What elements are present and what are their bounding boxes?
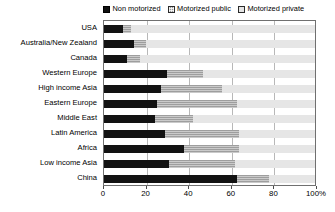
legend-swatch-motorized-public-icon [168,6,175,13]
x-axis-tick-label: 40 [184,190,193,198]
plot-area [103,20,316,186]
bar-row[interactable] [104,130,315,138]
bar-segment-motorized-private[interactable] [237,100,315,108]
bar-row[interactable] [104,160,315,168]
bar-segment-motorized-public[interactable] [155,115,193,123]
x-axis-tick-label: 0 [101,190,105,198]
bar-segment-motorized-private[interactable] [239,145,315,153]
y-axis-label: Canada [70,54,97,62]
bar-segment-non-motorized[interactable] [104,145,184,153]
bar-row[interactable] [104,25,315,33]
y-axis-label: China [77,174,97,182]
x-axis-tick-label: 20 [141,190,150,198]
bar-segment-non-motorized[interactable] [104,175,237,183]
bar-segment-motorized-public[interactable] [167,70,203,78]
bar-segment-motorized-private[interactable] [131,25,315,33]
y-axis-label: High income Asia [38,84,97,92]
chart-legend: Non motorized Motorized public Motorized… [103,2,335,16]
x-axis-tick-label: 100% [306,190,326,198]
bar-segment-motorized-private[interactable] [203,70,315,78]
bar-segment-motorized-public[interactable] [184,145,239,153]
bar-segment-motorized-public[interactable] [123,25,131,33]
bar-segment-non-motorized[interactable] [104,85,161,93]
bar-segment-motorized-private[interactable] [222,85,315,93]
bar-segment-motorized-public[interactable] [157,100,237,108]
legend-swatch-motorized-private-icon [238,6,245,13]
bar-segment-non-motorized[interactable] [104,40,134,48]
bar-segment-motorized-private[interactable] [146,40,315,48]
legend-item-motorized-private[interactable]: Motorized private [238,5,304,12]
bar-row[interactable] [104,85,315,93]
bar-row[interactable] [104,70,315,78]
bar-segment-motorized-public[interactable] [161,85,222,93]
bar-row[interactable] [104,55,315,63]
bar-segment-non-motorized[interactable] [104,160,169,168]
legend-item-non-motorized[interactable]: Non motorized [103,5,161,12]
bar-segment-non-motorized[interactable] [104,25,123,33]
y-axis-label: Africa [78,144,97,152]
y-axis-category-labels: USAAustralia/New ZealandCanadaWestern Eu… [0,20,100,186]
legend-label-motorized-private: Motorized private [247,5,304,12]
bars-layer [104,21,315,185]
bar-segment-non-motorized[interactable] [104,55,127,63]
x-axis: 020406080100% [103,186,316,210]
y-axis-label: Australia/New Zealand [21,39,97,47]
bar-segment-non-motorized[interactable] [104,100,157,108]
bar-segment-motorized-public[interactable] [165,130,239,138]
bar-row[interactable] [104,145,315,153]
x-axis-tick-label: 60 [226,190,235,198]
y-axis-label: USA [81,24,97,32]
bar-segment-motorized-public[interactable] [169,160,234,168]
bar-row[interactable] [104,115,315,123]
bar-segment-non-motorized[interactable] [104,115,155,123]
bar-row[interactable] [104,100,315,108]
stacked-bar-chart: Non motorized Motorized public Motorized… [0,0,335,212]
y-axis-label: Eastern Europe [44,99,97,107]
y-axis-label: Latin America [51,129,97,137]
bar-segment-motorized-private[interactable] [140,55,315,63]
bar-row[interactable] [104,175,315,183]
bar-segment-motorized-private[interactable] [239,130,315,138]
y-axis-label: Western Europe [42,69,97,77]
bar-row[interactable] [104,40,315,48]
bar-segment-motorized-private[interactable] [193,115,315,123]
bar-segment-motorized-public[interactable] [237,175,269,183]
legend-item-motorized-public[interactable]: Motorized public [168,5,231,12]
bar-segment-non-motorized[interactable] [104,70,167,78]
bar-segment-motorized-private[interactable] [269,175,315,183]
y-axis-label: Low income Asia [40,159,97,167]
legend-label-motorized-public: Motorized public [177,5,231,12]
bar-segment-motorized-public[interactable] [134,40,147,48]
y-axis-label: Middle East [57,114,97,122]
bar-segment-motorized-public[interactable] [127,55,140,63]
x-axis-tick-label: 80 [269,190,278,198]
bar-segment-non-motorized[interactable] [104,130,165,138]
bar-segment-motorized-private[interactable] [235,160,315,168]
legend-label-non-motorized: Non motorized [113,5,161,12]
legend-swatch-non-motorized-icon [103,6,110,13]
